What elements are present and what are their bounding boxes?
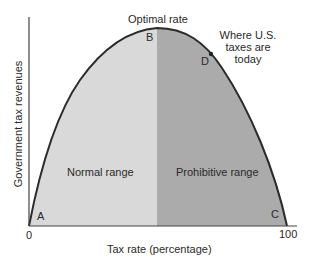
x-axis-label: Tax rate (percentage) bbox=[107, 243, 212, 255]
us-taxes-annotation: Where U.S. taxes are today bbox=[212, 29, 284, 65]
us-taxes-line3: today bbox=[212, 53, 284, 65]
optimal-rate-label: Optimal rate bbox=[128, 13, 188, 25]
x-tick-0: 0 bbox=[26, 229, 32, 241]
x-tick-100: 100 bbox=[279, 228, 297, 240]
point-b-label: B bbox=[146, 31, 153, 43]
y-axis-label: Government tax revenues bbox=[12, 44, 24, 204]
normal-range-label: Normal range bbox=[67, 166, 134, 178]
point-c-label: C bbox=[271, 208, 279, 220]
normal-range-area bbox=[29, 28, 157, 226]
us-taxes-line2: taxes are bbox=[212, 41, 284, 53]
point-a-label: A bbox=[37, 210, 44, 222]
prohibitive-range-label: Prohibitive range bbox=[176, 166, 259, 178]
point-d-label: D bbox=[201, 55, 209, 67]
us-taxes-line1: Where U.S. bbox=[212, 29, 284, 41]
